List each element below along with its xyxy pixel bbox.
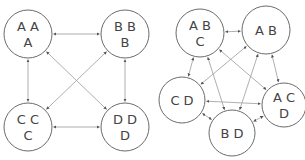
node-label: C (23, 128, 32, 143)
edge-abc-acd (219, 50, 266, 90)
edge-abc-cd (188, 58, 193, 77)
node-label: A C (273, 90, 295, 105)
edge-ab-bd (240, 54, 258, 109)
node-circle (176, 9, 224, 57)
node-cd: C D (159, 77, 205, 123)
node-bd: B D (209, 110, 255, 156)
node-label: A (24, 35, 33, 50)
node-label: B (121, 35, 130, 50)
edge-acd-bd (254, 116, 264, 121)
diagram-canvas: A AAB BBC CCD DDA BCA BC DA CDB D (0, 0, 305, 160)
node-label: D D (113, 112, 137, 127)
node-ccc: C CC (4, 103, 52, 151)
right-graph-nodes: A BCA BC DA CDB D (159, 6, 305, 156)
node-bbb: B BB (101, 10, 149, 58)
node-label: C (195, 34, 204, 49)
node-acd: A CD (262, 83, 305, 127)
node-label: D (120, 128, 130, 143)
node-label: A A (17, 19, 39, 34)
edge-cd-bd (202, 114, 211, 120)
node-circle (101, 10, 149, 58)
edge-ab-acd (272, 55, 279, 82)
node-circle (101, 103, 149, 151)
edge-cd-acd (207, 101, 261, 104)
node-label: C C (17, 112, 39, 127)
node-ddd: D DD (101, 103, 149, 151)
node-label: B B (114, 19, 136, 34)
node-label: A B (189, 18, 211, 33)
node-label: C D (170, 93, 193, 108)
node-ab: A B (242, 6, 290, 54)
node-circle (4, 103, 52, 151)
node-circle (4, 10, 52, 58)
node-aaa: A AA (4, 10, 52, 58)
node-label: A B (255, 23, 277, 38)
nodes-layer: A AAB BBC CCD DDA BCA BC DA CDB D (4, 6, 305, 156)
edge-abc-ab (226, 31, 241, 32)
node-abc: A BC (176, 9, 224, 57)
node-label: D (279, 106, 289, 121)
node-label: B D (220, 126, 243, 141)
